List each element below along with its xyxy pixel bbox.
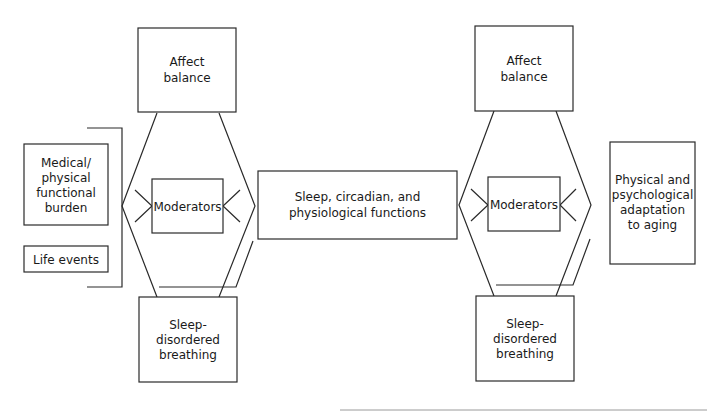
affect-balance-right-node: Affect balance [475,26,573,111]
moderators-left-label: Moderators [153,200,221,214]
affect-balance-right-line-2: balance [500,70,547,84]
physical-adaptation-node: Physical and psychological adaptation to… [610,142,695,264]
medical-burden-line-4: burden [45,201,88,215]
physical-adaptation-line-1: Physical and [615,173,690,187]
left-moderator-arrow-in-left [135,190,152,222]
sleep-disordered-right-line-2: disordered [493,332,557,346]
medical-burden-line-1: Medical/ [41,156,92,170]
sleep-circadian-node: Sleep, circadian, and physiological func… [258,171,457,239]
medical-burden-line-2: physical [41,171,90,185]
sleep-disordered-right-line-3: breathing [496,347,554,361]
sleep-circadian-line-1: Sleep, circadian, and [295,190,421,204]
right-moderator-arrow-in-right [560,189,576,221]
right-moderation-group: Affect balance Moderators Sleep- disorde… [459,26,695,381]
sleep-disordered-right-line-1: Sleep- [506,317,544,331]
sleep-disordered-breathing-right-node: Sleep- disordered breathing [476,296,574,381]
conceptual-model-diagram: Affect balance Moderators Sleep- disorde… [0,0,717,411]
sleep-disordered-left-line-2: disordered [156,333,220,347]
medical-burden-node: Medical/ physical functional burden [24,144,108,225]
left-moderator-arrow-in-right [223,190,240,222]
sleep-disordered-breathing-left-node: Sleep- disordered breathing [139,297,237,382]
physical-adaptation-line-2: psychological [612,188,693,202]
affect-balance-left-node: Affect balance [138,28,236,112]
right-moderator-arrow-in-left [471,189,488,221]
affect-balance-left-line-1: Affect [169,55,204,69]
sleep-disordered-left-line-3: breathing [159,348,217,362]
moderators-right-label: Moderators [490,198,558,212]
left-moderation-group: Affect balance Moderators Sleep- disorde… [24,28,255,382]
physical-adaptation-line-3: adaptation [620,203,685,217]
life-events-node: Life events [24,246,108,272]
sleep-disordered-left-line-1: Sleep- [169,318,207,332]
affect-balance-left-line-2: balance [163,71,210,85]
moderators-left-node: Moderators [152,179,223,233]
sleep-circadian-line-2: physiological functions [289,206,426,220]
affect-balance-right-line-1: Affect [506,54,541,68]
moderators-right-node: Moderators [488,177,560,231]
medical-burden-line-3: functional [36,186,96,200]
life-events-label: Life events [33,253,99,267]
physical-adaptation-line-4: to aging [628,218,677,232]
